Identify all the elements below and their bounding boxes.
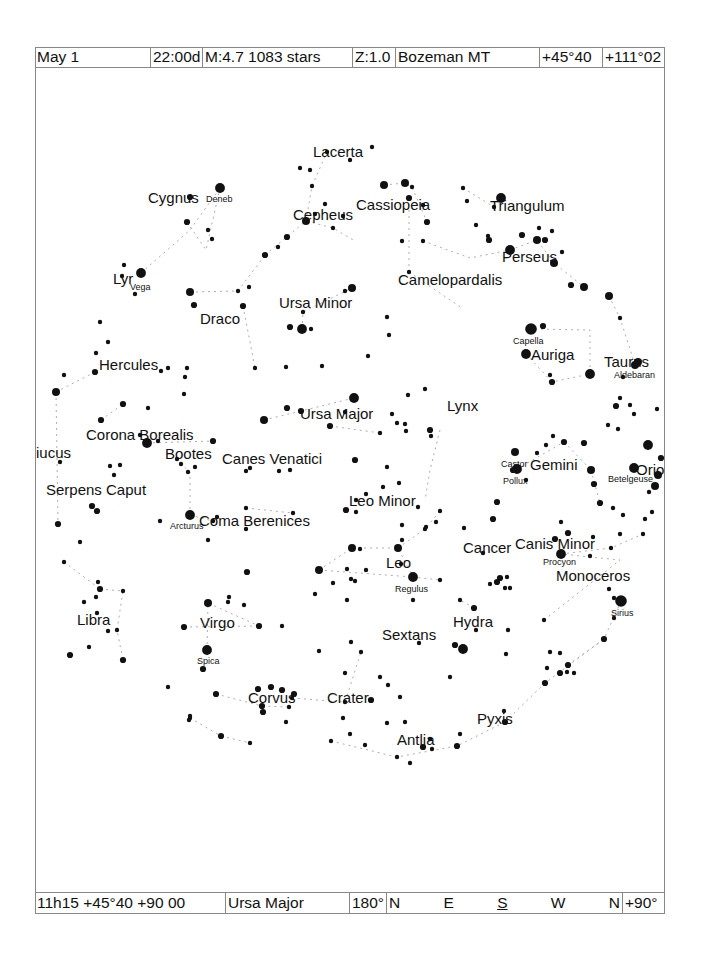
star bbox=[410, 185, 414, 189]
star-name-label[interactable]: Aldebaran bbox=[614, 370, 655, 380]
star bbox=[421, 239, 425, 243]
star-name-label[interactable]: Regulus bbox=[395, 584, 429, 594]
star bbox=[394, 544, 402, 552]
constellation-label[interactable]: iucus bbox=[36, 444, 71, 461]
star bbox=[506, 628, 510, 632]
constellation-label[interactable]: Triangulum bbox=[490, 197, 564, 214]
star bbox=[448, 675, 452, 679]
star bbox=[641, 532, 645, 536]
star bbox=[542, 680, 548, 686]
constellation-label[interactable]: Camelopardalis bbox=[398, 271, 502, 288]
star-chart[interactable]: LacertaCygnusCepheusCassiopeiaTriangulum… bbox=[35, 68, 665, 892]
compass-south[interactable]: S bbox=[497, 893, 507, 913]
constellation-label[interactable]: Coma Berenices bbox=[199, 512, 310, 529]
star bbox=[62, 373, 66, 377]
star bbox=[370, 145, 374, 149]
star bbox=[96, 580, 100, 584]
constellation-label[interactable]: Perseus bbox=[502, 248, 557, 265]
constellation-label[interactable]: Gemini bbox=[530, 456, 578, 473]
constellation-label[interactable]: Leo bbox=[386, 554, 411, 571]
time-field[interactable]: 22:00d bbox=[151, 47, 203, 67]
date-field[interactable]: May 1 bbox=[35, 47, 151, 67]
star bbox=[597, 500, 603, 506]
star-name-label[interactable]: Spica bbox=[197, 656, 220, 666]
compass-west[interactable]: W bbox=[551, 893, 566, 913]
star bbox=[655, 407, 659, 411]
star bbox=[609, 546, 613, 550]
constellation-label[interactable]: Corona Borealis bbox=[86, 426, 194, 443]
constellation-label[interactable]: Canis Minor bbox=[515, 535, 595, 552]
magnitude-field[interactable]: M:4.7 1083 stars bbox=[203, 47, 353, 67]
location-field[interactable]: Bozeman MT bbox=[396, 47, 540, 67]
constellation-label[interactable]: Crater bbox=[327, 689, 369, 706]
star bbox=[185, 510, 195, 520]
star bbox=[525, 323, 537, 335]
star-name-label[interactable]: Sirius bbox=[611, 608, 634, 618]
constellation-label[interactable]: Taurus bbox=[604, 353, 649, 370]
azimuth-field[interactable]: 180° bbox=[350, 893, 387, 913]
longitude-field[interactable]: +111°02 bbox=[603, 47, 665, 67]
center-coords-field[interactable]: 11h15 +45°40 +90 00 bbox=[35, 893, 226, 913]
star bbox=[297, 324, 307, 334]
constellation-label[interactable]: Hercules bbox=[99, 356, 158, 373]
constellation-label[interactable]: Pyxis bbox=[477, 710, 513, 727]
star bbox=[647, 490, 651, 494]
star-name-label[interactable]: Vega bbox=[130, 282, 151, 292]
compass-north[interactable]: N bbox=[389, 893, 400, 913]
zoom-field[interactable]: Z:1.0 bbox=[353, 47, 396, 67]
star bbox=[146, 406, 150, 410]
star-name-label[interactable]: Betelgeuse bbox=[608, 474, 653, 484]
constellation-label[interactable]: Canes Venatici bbox=[222, 450, 322, 467]
constellation-label[interactable]: Cancer bbox=[463, 539, 511, 556]
constellation-label[interactable]: Monoceros bbox=[556, 567, 630, 584]
constellation-label[interactable]: Draco bbox=[200, 310, 240, 327]
star bbox=[183, 375, 187, 379]
star bbox=[121, 589, 125, 593]
star bbox=[378, 431, 382, 435]
constellation-label[interactable]: Ursa Minor bbox=[279, 294, 352, 311]
constellation-label[interactable]: Lacerta bbox=[313, 143, 364, 160]
star-name-label[interactable]: Castor bbox=[501, 459, 528, 469]
constellation-label[interactable]: Auriga bbox=[531, 346, 575, 363]
star bbox=[561, 439, 567, 445]
constellation-label[interactable]: Ursa Major bbox=[300, 405, 373, 422]
constellation-label[interactable]: Bootes bbox=[165, 445, 212, 462]
star bbox=[560, 250, 564, 254]
altitude-field[interactable]: +90° bbox=[623, 893, 665, 913]
constellation-label[interactable]: Lynx bbox=[447, 397, 479, 414]
star bbox=[503, 586, 507, 590]
star-name-label[interactable]: Pollux bbox=[503, 476, 528, 486]
star bbox=[400, 523, 404, 527]
constellation-label[interactable]: Antlia bbox=[397, 731, 435, 748]
constellation-label[interactable]: Hydra bbox=[453, 613, 494, 630]
star bbox=[210, 438, 216, 444]
star bbox=[401, 179, 409, 187]
star bbox=[310, 184, 314, 188]
star bbox=[613, 403, 619, 409]
star bbox=[260, 709, 266, 715]
constellation-label[interactable]: Cassiopeia bbox=[356, 196, 431, 213]
constellation-label[interactable]: Leo Minor bbox=[349, 492, 416, 509]
star bbox=[368, 697, 374, 703]
star-name-label[interactable]: Capella bbox=[513, 336, 544, 346]
star bbox=[628, 403, 632, 407]
constellation-label[interactable]: Cepheus bbox=[293, 206, 353, 223]
star-name-label[interactable]: Deneb bbox=[206, 194, 233, 204]
star bbox=[242, 603, 246, 607]
star bbox=[535, 451, 539, 455]
star bbox=[236, 289, 240, 293]
star-name-label[interactable]: Procyon bbox=[543, 557, 576, 567]
star bbox=[352, 457, 358, 463]
latitude-field[interactable]: +45°40 bbox=[540, 47, 603, 67]
compass-east[interactable]: E bbox=[444, 893, 454, 913]
constellation-label[interactable]: Corvus bbox=[248, 689, 296, 706]
star-name-label[interactable]: Arcturus bbox=[170, 521, 204, 531]
constellation-label[interactable]: Cygnus bbox=[148, 189, 199, 206]
constellation-label[interactable]: Virgo bbox=[200, 614, 235, 631]
constellation-label[interactable]: Libra bbox=[77, 611, 111, 628]
constellation-label[interactable]: Sextans bbox=[382, 626, 436, 643]
compass-bar[interactable]: N E S W N bbox=[387, 893, 623, 913]
compass-north-end[interactable]: N bbox=[609, 893, 620, 913]
center-constellation-field[interactable]: Ursa Major bbox=[226, 893, 350, 913]
constellation-label[interactable]: Serpens Caput bbox=[46, 481, 147, 498]
